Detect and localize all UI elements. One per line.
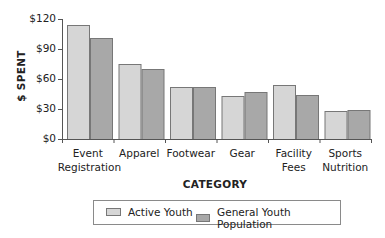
- y-tick-label: $0: [16, 132, 56, 144]
- legend-item-general-youth: General Youth Population: [196, 206, 340, 230]
- bar: [142, 70, 164, 140]
- legend-label: Active Youth: [128, 206, 193, 218]
- bar: [68, 26, 90, 140]
- legend: Active Youth General Youth Population: [93, 200, 341, 225]
- bar: [325, 112, 347, 140]
- x-axis-title: CATEGORY: [160, 178, 270, 190]
- bar: [297, 96, 319, 140]
- legend-swatch-general-youth: [196, 214, 210, 222]
- bar: [222, 97, 244, 140]
- bar: [91, 39, 113, 140]
- x-tick-label: Sports Nutrition: [315, 146, 375, 174]
- y-axis-title: $ SPENT: [15, 41, 27, 111]
- bar: [194, 88, 216, 140]
- bar: [171, 88, 193, 140]
- bar: [274, 86, 296, 140]
- legend-label: General Youth Population: [217, 206, 340, 230]
- bar: [119, 65, 141, 140]
- bar: [245, 93, 267, 140]
- legend-swatch-active-youth: [106, 208, 121, 216]
- bar-chart: $0$30$60$90$120 $ SPENT Event Registrati…: [0, 0, 385, 238]
- bar: [348, 111, 370, 140]
- legend-item-active-youth: Active Youth: [106, 206, 193, 218]
- y-tick-label: $120: [16, 12, 56, 24]
